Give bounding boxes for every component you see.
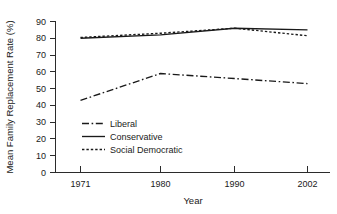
legend-label-social-democratic: Social Democratic xyxy=(110,145,183,155)
y-tick-label: 40 xyxy=(36,100,46,110)
x-tick-group: 1971 1980 1990 2002 xyxy=(70,166,317,189)
y-axis-title: Mean Family Replacement Rate (%) xyxy=(4,20,15,173)
y-tick-label: 30 xyxy=(36,117,46,127)
y-tick-label: 20 xyxy=(36,134,46,144)
y-tick-label: 90 xyxy=(36,17,46,27)
y-tick-group: 0 10 20 30 40 50 60 70 80 90 xyxy=(36,17,56,178)
x-tick-label: 1990 xyxy=(224,179,244,189)
legend-label-conservative: Conservative xyxy=(110,132,163,142)
x-tick-label: 1980 xyxy=(150,179,170,189)
y-tick-label: 50 xyxy=(36,84,46,94)
y-tick-label: 80 xyxy=(36,33,46,43)
x-axis-title: Year xyxy=(183,195,202,206)
x-tick-label: 1971 xyxy=(70,179,90,189)
x-tick-label: 2002 xyxy=(297,179,317,189)
chart-legend: Liberal Conservative Social Democratic xyxy=(82,119,183,155)
y-tick-label: 60 xyxy=(36,67,46,77)
y-tick-label: 70 xyxy=(36,50,46,60)
line-chart: Mean Family Replacement Rate (%) 0 10 20… xyxy=(0,0,337,214)
legend-label-liberal: Liberal xyxy=(110,119,137,129)
chart-figure: Mean Family Replacement Rate (%) 0 10 20… xyxy=(0,0,337,214)
series-line-conservative xyxy=(81,28,308,38)
series-line-liberal xyxy=(81,74,308,101)
y-tick-label: 10 xyxy=(36,151,46,161)
y-tick-label: 0 xyxy=(41,168,46,178)
